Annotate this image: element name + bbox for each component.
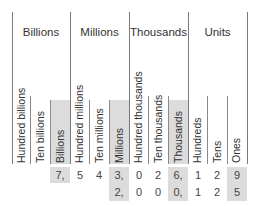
col-label-ones: Ones bbox=[230, 138, 243, 163]
cell-hundred-millions: 5 bbox=[70, 167, 90, 183]
col-label-millions: Millions bbox=[113, 128, 126, 163]
divider-sub bbox=[168, 96, 169, 164]
col-label-thousands: Thousands bbox=[172, 111, 185, 163]
cell-billions: 7, bbox=[50, 167, 70, 183]
col-label-ten-billions: Ten billions bbox=[34, 111, 47, 163]
col-label-hundred-billions: Hundred billions bbox=[15, 88, 28, 163]
cell-tens: 2 bbox=[207, 167, 227, 183]
cell-thousands: 0, bbox=[168, 183, 188, 201]
divider-sub bbox=[89, 100, 90, 164]
cell-millions: 3, bbox=[109, 167, 129, 183]
col-label-billions: Billions bbox=[54, 130, 67, 163]
cell-ones: 9 bbox=[227, 167, 247, 183]
divider-sub bbox=[50, 100, 51, 164]
group-header-billions: Billions bbox=[12, 24, 70, 40]
cell-hundred-thousands: 0 bbox=[129, 167, 149, 183]
group-header-units: Units bbox=[188, 24, 247, 40]
divider-right bbox=[247, 12, 248, 164]
group-header-millions: Millions bbox=[70, 24, 129, 40]
divider-sub bbox=[148, 96, 149, 164]
divider-sub bbox=[227, 96, 228, 164]
col-label-tens: Tens bbox=[211, 141, 224, 163]
col-label-hundred-millions: Hundred millions bbox=[73, 85, 86, 163]
cell-ten-millions: 4 bbox=[89, 167, 109, 183]
cell-ten-thousands: 0 bbox=[148, 183, 168, 201]
cell-ten-thousands: 2 bbox=[148, 167, 168, 183]
cell-thousands: 6, bbox=[168, 167, 188, 183]
cell-hundred-thousands: 0 bbox=[129, 183, 149, 201]
divider-sub bbox=[207, 96, 208, 164]
cell-tens: 2 bbox=[207, 183, 227, 201]
cell-ones: 5 bbox=[227, 183, 247, 201]
cell-hundreds: 1 bbox=[188, 167, 208, 183]
col-label-hundreds: Hundreds bbox=[191, 117, 204, 163]
col-label-ten-thousands: Ten thousands bbox=[152, 95, 165, 163]
group-header-thousands: Thousands bbox=[129, 24, 188, 40]
cell-millions: 2, bbox=[109, 183, 129, 201]
col-label-hundred-thousands: Hundred thousands bbox=[132, 71, 145, 163]
col-label-ten-millions: Ten millions bbox=[93, 108, 106, 163]
divider-sub bbox=[109, 100, 110, 164]
cell-hundreds: 1 bbox=[188, 183, 208, 201]
divider-sub bbox=[30, 96, 31, 164]
